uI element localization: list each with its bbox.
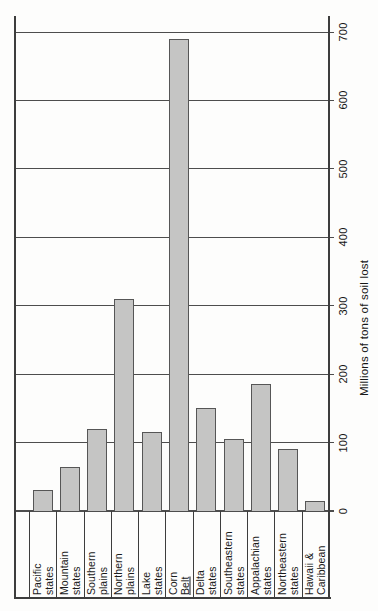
value-tick-label: 100	[337, 433, 349, 452]
category-cell-pacific-states: Pacificstates	[29, 511, 56, 598]
bar-hawaii-caribbean	[305, 501, 325, 511]
bar-mountain-states	[60, 467, 80, 511]
category-cell-southeastern-states: Southeasternstates	[220, 511, 247, 598]
bar-corn-belt	[169, 39, 189, 511]
category-label: CornBelt	[167, 515, 190, 595]
value-tick-0: 0	[328, 496, 358, 526]
left-frame-line	[14, 16, 16, 598]
category-cell-lake-states: Lakestates	[138, 511, 165, 598]
category-label: Deltastates	[195, 515, 218, 595]
category-label: Lakestates	[140, 515, 163, 595]
category-cell-mountain-states: Mountainstates	[56, 511, 83, 598]
category-label: Northernplains	[113, 515, 136, 595]
value-tick-label: 700	[337, 23, 349, 42]
bar-delta-states	[196, 408, 216, 511]
bar-southeastern-states	[224, 439, 244, 511]
value-tick-label: 500	[337, 159, 349, 178]
value-tick-600: 600	[328, 85, 358, 115]
bar-northern-plains	[114, 299, 134, 511]
soil-loss-bar-chart: 0100200300400500600700PacificstatesMount…	[0, 0, 378, 611]
value-tick-label: 0	[337, 508, 349, 514]
category-label: Hawaii &Caribbean	[304, 515, 327, 595]
value-tick-700: 700	[328, 17, 358, 47]
bar-lake-states	[142, 432, 162, 511]
category-cell-delta-states: Deltastates	[193, 511, 220, 598]
bar-southern-plains	[87, 429, 107, 511]
value-tick-100: 100	[328, 428, 358, 458]
category-cell-northeastern-states: Northeasternstates	[274, 511, 301, 598]
category-label: Mountainstates	[58, 515, 81, 595]
bar-appalachian-states	[251, 384, 271, 511]
value-tick-label: 600	[337, 91, 349, 110]
value-tick-500: 500	[328, 154, 358, 184]
category-label: Northeasternstates	[277, 515, 300, 595]
category-label: Southeasternstates	[222, 515, 245, 595]
bar-northeastern-states	[278, 449, 298, 511]
category-cell-northern-plains: Northernplains	[111, 511, 138, 598]
category-cell-hawaii-caribbean: Hawaii &Caribbean	[302, 511, 329, 598]
category-label: Southernplains	[86, 515, 109, 595]
bar-pacific-states	[33, 490, 53, 511]
category-cell-corn-belt: CornBelt	[165, 511, 192, 598]
category-label: Appalachianstates	[249, 515, 272, 595]
value-axis-title-text: Millions of tons of soil lost	[358, 260, 370, 396]
value-axis-title: Millions of tons of soil lost	[347, 228, 378, 428]
category-cell-appalachian-states: Appalachianstates	[247, 511, 274, 598]
category-label: Pacificstates	[31, 515, 54, 595]
category-cell-southern-plains: Southernplains	[84, 511, 111, 598]
gridline-700	[15, 32, 334, 33]
